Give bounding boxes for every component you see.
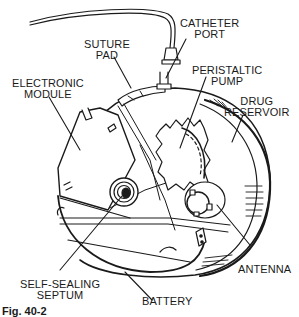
label-peristaltic-pump: PERISTALTIC PUMP	[192, 65, 262, 87]
label-battery: BATTERY	[142, 296, 192, 307]
label-antenna: ANTENNA	[238, 264, 291, 275]
figure-caption: Fig. 40-2	[2, 305, 47, 317]
peristaltic-pump	[156, 118, 210, 190]
label-suture-pad: SUTURE PAD	[84, 39, 130, 61]
label-electronic-module: ELECTRONIC MODULE	[12, 78, 84, 100]
label-drug-reservoir: DRUG RESERVOIR	[224, 96, 290, 118]
self-sealing-septum	[110, 178, 138, 206]
label-self-sealing-septum: SELF-SEALING SEPTUM	[20, 279, 100, 301]
label-catheter-port: CATHETER PORT	[180, 18, 239, 40]
antenna	[185, 182, 225, 218]
